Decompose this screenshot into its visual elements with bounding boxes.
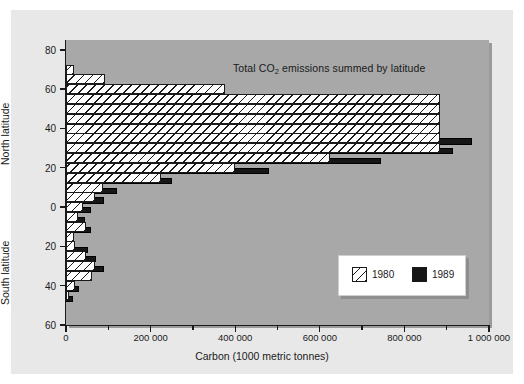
chart-title: Total CO2 emissions summed by latitude <box>233 62 425 74</box>
chart-title-suffix: emissions summed by latitude <box>279 62 425 74</box>
legend-label-1989: 1989 <box>432 269 454 280</box>
y-tick-label: 20 <box>11 241 56 252</box>
legend-item-1980[interactable]: 1980 <box>352 267 394 282</box>
bar-1980 <box>66 143 440 153</box>
legend-swatch-hatch-icon <box>352 267 367 282</box>
bar-1980 <box>66 124 440 134</box>
x-tick-mark-minor <box>277 326 278 330</box>
x-tick-label: 0 <box>63 332 68 343</box>
legend-swatch-solid-icon <box>412 267 427 282</box>
y-tick-label: 60 <box>11 84 56 95</box>
bar-1980 <box>66 84 225 94</box>
x-tick-label: 1 000 000 <box>468 332 510 343</box>
chart-title-subscript: 2 <box>275 67 279 76</box>
bar-1980 <box>66 153 330 163</box>
legend-label-1980: 1980 <box>372 269 394 280</box>
bar-1980 <box>66 232 74 242</box>
bar-1980 <box>66 65 74 75</box>
bar-1980 <box>66 114 440 124</box>
bar-1980 <box>66 212 78 222</box>
bar-1980 <box>66 192 95 202</box>
legend-item-1989[interactable]: 1989 <box>412 267 454 282</box>
x-tick-mark-minor <box>361 326 362 330</box>
y-tick-label: 40 <box>11 280 56 291</box>
x-tick-mark-minor <box>192 326 193 330</box>
bar-1980 <box>66 94 440 104</box>
chart-title-prefix: Total CO <box>233 62 275 74</box>
y-tick-label: 0 <box>11 202 56 213</box>
bar-1980 <box>66 281 75 291</box>
bar-1980 <box>66 133 440 143</box>
figure-panel: Total CO2 emissions summed by latitude 8… <box>11 10 513 374</box>
y-tick-label: 60 <box>11 320 56 331</box>
bar-1980 <box>66 74 105 84</box>
bar-1980 <box>66 241 75 251</box>
chart-legend[interactable]: 1980 1989 <box>338 255 466 296</box>
bar-1980 <box>66 183 103 193</box>
bar-1980 <box>66 173 161 183</box>
bar-1980 <box>66 291 69 301</box>
bar-1980 <box>66 222 86 232</box>
y-tick-label: 20 <box>11 162 56 173</box>
bar-1980 <box>66 202 83 212</box>
bar-1980 <box>66 261 95 271</box>
y-axis-label-south: South latitude <box>0 241 11 305</box>
bar-1980 <box>66 271 92 281</box>
y-tick-label: 40 <box>11 123 56 134</box>
x-tick-mark-minor <box>108 326 109 330</box>
y-tick-label: 80 <box>11 44 56 55</box>
x-tick-label: 800 000 <box>387 332 421 343</box>
y-tick-mark <box>60 49 66 50</box>
bar-1980 <box>66 251 86 261</box>
x-tick-label: 600 000 <box>303 332 337 343</box>
x-tick-mark-minor <box>446 326 447 330</box>
bar-1980 <box>66 163 235 173</box>
bar-1980 <box>66 104 440 114</box>
x-axis-label: Carbon (1000 metric tonnes) <box>11 350 513 362</box>
x-tick-label: 400 000 <box>218 332 252 343</box>
y-axis-label-north: North latitude <box>0 103 11 165</box>
x-tick-label: 200 000 <box>133 332 167 343</box>
